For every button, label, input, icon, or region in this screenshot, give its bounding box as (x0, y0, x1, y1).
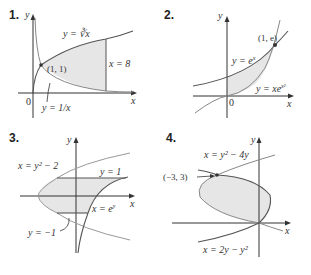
graph-3: y x x = y² − 2 y = 1 y = −1 x = ey (0, 135, 155, 275)
graph-1: y x 0 y = ∛x (1, 1) x = 8 y = 1/x (0, 0, 155, 135)
svg-text:y: y (250, 135, 256, 145)
panel-3: 3. y x x = y² − 2 y = 1 y = −1 x = ey (0, 135, 155, 275)
svg-text:x = ey: x = ey (91, 203, 116, 214)
svg-text:y: y (66, 135, 72, 145)
panel-number: 1. (9, 8, 19, 22)
panel-1: 1. y x 0 y = ∛x (1, 1) x = 8 y = 1/x (0, 0, 155, 135)
svg-text:y = ∛x: y = ∛x (62, 27, 90, 39)
intersection-point (273, 43, 277, 47)
svg-text:x = y² − 4y: x = y² − 4y (203, 149, 249, 160)
svg-text:0: 0 (229, 97, 234, 108)
svg-text:x: x (284, 225, 290, 236)
panel-2: 2. y x 0 (1, e) y = ex y = xex² (155, 0, 311, 135)
shaded-region (199, 175, 270, 223)
svg-text:y = 1/x: y = 1/x (41, 102, 71, 113)
svg-text:y = xex²: y = xex² (255, 83, 286, 94)
intersection-point (215, 173, 219, 177)
svg-text:(−3, 3): (−3, 3) (163, 172, 188, 182)
panel-4: 4. y x x = y² − 4y (−3, 3) x = 2y − y² (155, 135, 311, 275)
svg-text:(1, 1): (1, 1) (47, 64, 67, 74)
graph-2: y x 0 (1, e) y = ex y = xex² (155, 0, 311, 135)
svg-text:x = y² − 2: x = y² − 2 (17, 160, 58, 171)
pointer-arrow (197, 176, 212, 177)
svg-text:x = 8: x = 8 (108, 58, 130, 69)
svg-text:x = 2y − y²: x = 2y − y² (202, 244, 249, 255)
svg-text:0: 0 (26, 96, 31, 107)
svg-text:x: x (286, 98, 292, 109)
panel-number: 2. (164, 8, 174, 22)
svg-text:y = ex: y = ex (231, 55, 256, 66)
y-arrow-icon (225, 16, 230, 22)
graph-4: y x x = y² − 4y (−3, 3) x = 2y − y² (155, 135, 311, 275)
svg-text:(1, e): (1, e) (258, 33, 277, 43)
intersection-point (39, 63, 43, 67)
svg-text:y: y (24, 9, 30, 20)
svg-text:x: x (130, 95, 136, 106)
svg-text:y = 1: y = 1 (99, 166, 121, 177)
svg-text:x: x (129, 198, 135, 209)
svg-text:y = −1: y = −1 (27, 227, 56, 238)
panel-number: 3. (9, 131, 19, 145)
y-arrow-icon (74, 137, 79, 143)
svg-text:y: y (217, 10, 223, 21)
panel-number: 4. (166, 131, 176, 145)
y-arrow-icon (257, 137, 262, 143)
